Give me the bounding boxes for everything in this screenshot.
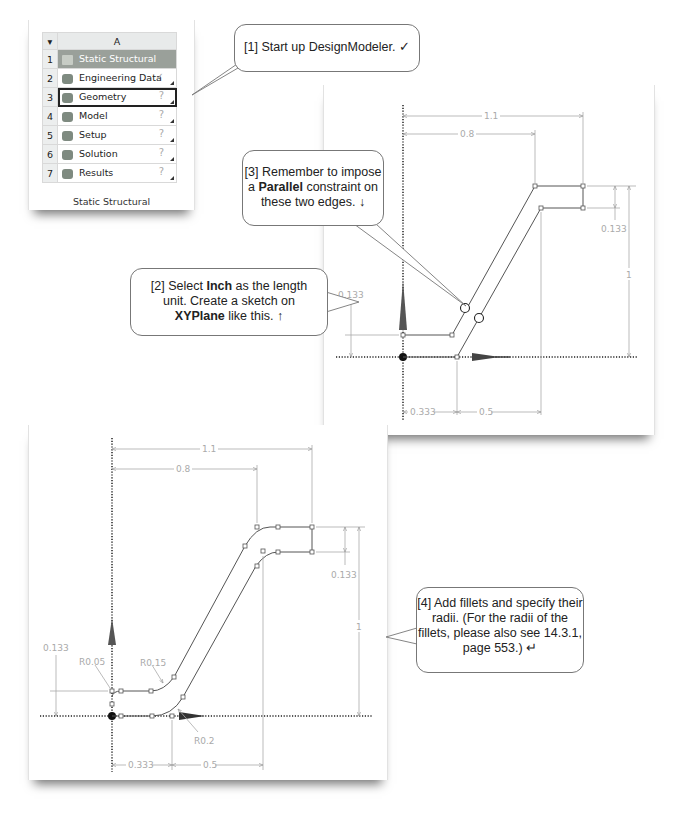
svg-text:0.8: 0.8	[460, 129, 475, 139]
sketch-top: 1.1 0.8 0.133 1 0.133 0.333 0.5	[336, 105, 637, 420]
down-arrow-icon: ↓	[359, 195, 365, 209]
callout3-pointer	[354, 224, 466, 306]
callout-step-4: [4] Add fillets and specify their radii.…	[416, 587, 584, 673]
svg-text:R0.2: R0.2	[194, 736, 215, 746]
sketch-drawings: 1.1 0.8 0.133 1 0.133 0.333 0.5	[0, 0, 675, 824]
svg-text:0.333: 0.333	[410, 407, 436, 417]
svg-text:0.133: 0.133	[601, 224, 627, 234]
svg-text:1.1: 1.1	[202, 444, 216, 454]
svg-text:1: 1	[626, 270, 632, 280]
svg-text:0.5: 0.5	[479, 407, 493, 417]
svg-text:R0.15: R0.15	[140, 658, 166, 668]
y-axis-arrow-icon	[108, 618, 116, 645]
callout-step-3: [3] Remember to impose a Parallel constr…	[242, 150, 384, 226]
svg-text:1.1: 1.1	[484, 111, 498, 121]
svg-text:0.133: 0.133	[331, 570, 357, 580]
callout-step-2: [2] Select Inch as the length unit. Crea…	[130, 268, 328, 336]
svg-text:R0.05: R0.05	[79, 657, 105, 667]
callout4-pointer	[386, 628, 417, 644]
up-arrow-icon: ↑	[277, 309, 283, 323]
svg-text:0.133: 0.133	[43, 643, 69, 653]
x-axis-arrow-icon	[179, 712, 205, 720]
callout-step-1: [1] Start up DesignModeler. ✓	[234, 24, 420, 72]
check-mark-icon: ✓	[399, 40, 410, 54]
sketch-bottom: 1.1 0.8 0.133 1 0.133 0.333 0.5 R0.05 R0…	[40, 438, 373, 772]
svg-text:1: 1	[356, 622, 362, 632]
return-arrow-icon: ↵	[526, 641, 537, 655]
svg-text:0.8: 0.8	[176, 464, 191, 474]
callout1-pointer	[192, 62, 240, 95]
svg-text:0.333: 0.333	[128, 760, 154, 770]
y-axis-arrow-icon	[399, 280, 407, 330]
parallel-constraint-marker	[475, 314, 484, 323]
svg-text:0.5: 0.5	[203, 760, 217, 770]
